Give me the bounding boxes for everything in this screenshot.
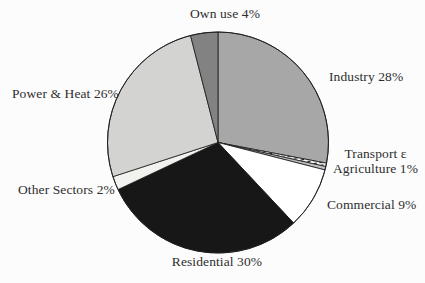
slice-label-power-heat: Power & Heat 26% — [12, 87, 124, 102]
slice-industry — [218, 32, 328, 163]
pie-slices — [108, 32, 329, 253]
pie-chart — [0, 0, 425, 283]
slice-label-commercial: Commercial 9% — [327, 198, 425, 213]
slice-label-industry: Industry 28% — [329, 70, 425, 85]
slice-label-other-sectors: Other Sectors 2% — [18, 183, 130, 198]
slice-label-transport-agriculture: Transport εAgriculture 1% — [326, 147, 425, 176]
slice-label-own-use: Own use 4% — [168, 7, 282, 22]
slice-label-residential: Residential 30% — [160, 255, 274, 270]
pie-chart-figure: Own use 4%Industry 28%Transport εAgricul… — [0, 0, 425, 283]
